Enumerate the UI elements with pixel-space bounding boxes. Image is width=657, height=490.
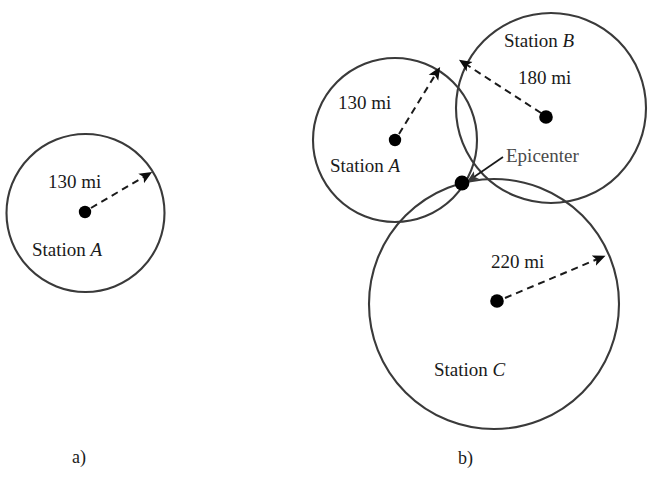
panel-a-group [7,134,165,292]
panel-b-station-c-label: Station C [434,360,505,379]
panel-b-station-b-dot [539,110,553,124]
panel-b-station-a-label-letter: A [389,155,401,176]
epicenter-label: Epicenter [506,146,579,165]
panel-b-station-c-label-prefix: Station [434,359,493,380]
earthquake-epicenter-figure: 130 mi Station A a) Station B 180 mi 130… [0,0,657,490]
panel-b-station-c-label-letter: C [493,359,506,380]
panel-b-station-c-distance-label: 220 mi [491,252,544,271]
panel-b-station-b-label: Station B [504,31,574,50]
panel-a-station-a-label: Station A [32,240,102,259]
panel-a-station-a-label-letter: A [91,239,103,260]
panel-a-station-a-dot [79,206,91,218]
panel-b-station-a-label-prefix: Station [330,155,389,176]
panel-a-station-a-label-prefix: Station [32,239,91,260]
panel-b-station-b-label-prefix: Station [504,30,563,51]
epicenter-pointer-arrow [471,157,503,179]
panel-b-station-a-label: Station A [330,156,400,175]
panel-a-distance-label: 130 mi [48,172,101,191]
panel-b-station-b-label-letter: B [563,30,575,51]
epicenter-dot [455,176,470,191]
panel-b-station-c-dot [490,294,504,308]
panel-a-letter: a) [72,448,86,466]
panel-b-letter: b) [458,449,473,467]
panel-b-station-a-distance-label: 130 mi [338,93,391,112]
panel-b-station-a-radius-arrow [399,72,437,134]
panel-b-station-b-distance-label: 180 mi [518,68,571,87]
panel-b-station-a-dot [389,134,401,146]
